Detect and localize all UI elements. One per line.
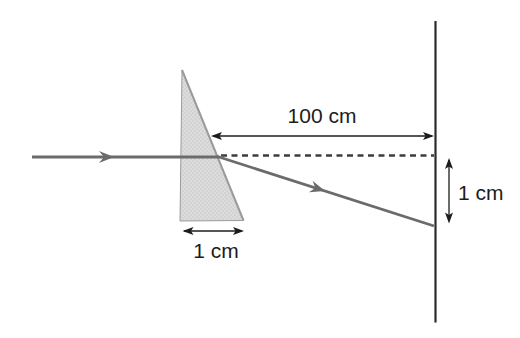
distance-label: 100 cm <box>288 104 357 127</box>
prism-width-label: 1 cm <box>193 239 239 262</box>
refracted-ray <box>218 157 435 227</box>
prism-width-measure: 1 cm <box>183 227 245 262</box>
diagram-canvas: 100 cm 1 cm 1 cm <box>0 0 520 338</box>
prism <box>180 70 244 221</box>
refracted-ray-arrowhead-icon <box>309 181 327 197</box>
displacement-label: 1 cm <box>458 181 504 204</box>
distance-measure: 100 cm <box>211 104 434 140</box>
refracted-ray-line <box>218 157 435 227</box>
prism-deviation-figure: 100 cm 1 cm 1 cm <box>0 0 520 338</box>
displacement-measure: 1 cm <box>445 158 504 224</box>
